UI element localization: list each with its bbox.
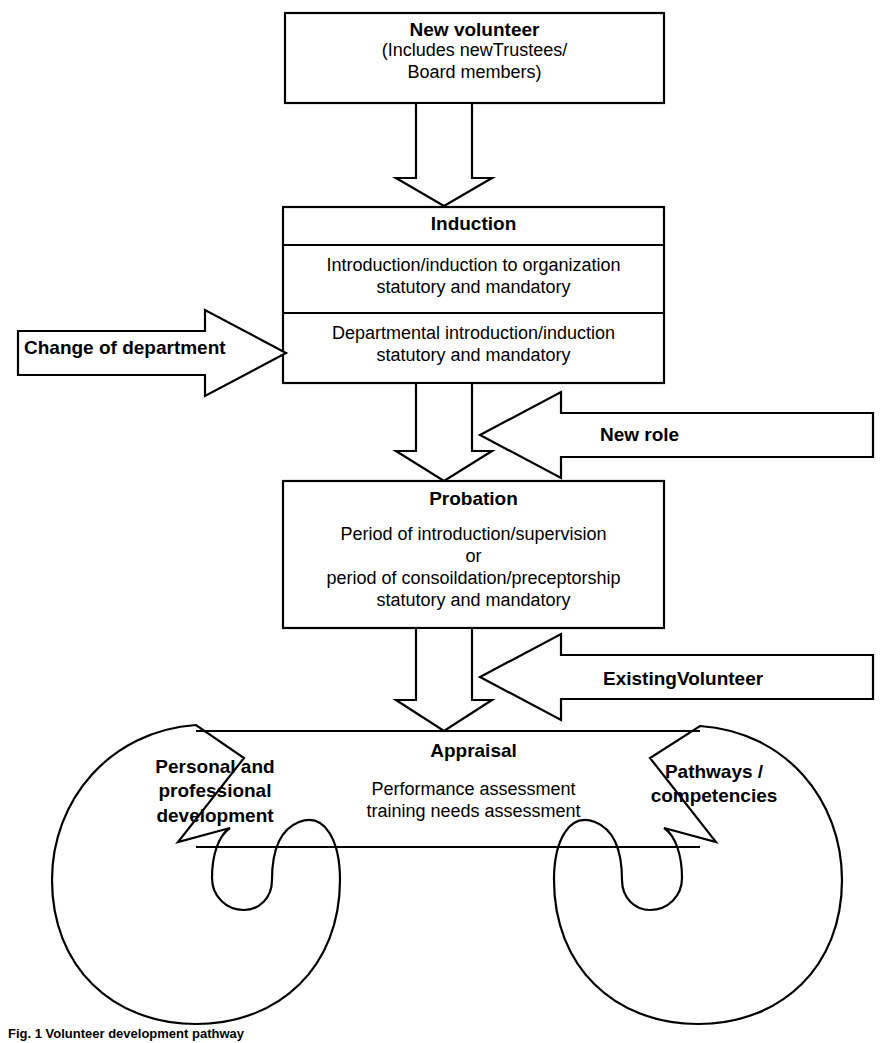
flowchart-canvas: New volunteer (Includes newTrustees/ Boa… (0, 0, 891, 1043)
left-loop-label: Personal and professional development (120, 755, 310, 828)
induction-row2-line2: statutory and mandatory (289, 345, 658, 367)
change-of-department-label: Change of department (24, 336, 272, 359)
connector-arrow-probation-to-appraisal (396, 628, 492, 731)
induction-row1-line1: Introduction/induction to organization (289, 255, 658, 277)
new-volunteer-sub-line2: Board members) (285, 62, 664, 84)
figure-caption: Fig. 1 Volunteer development pathway (8, 1026, 408, 1042)
induction-row-2: Departmental introduction/induction stat… (289, 323, 658, 367)
appraisal-body: Performance assessment training needs as… (288, 779, 659, 823)
connector-arrow-new-volunteer-to-induction (396, 103, 492, 206)
probation-line4: statutory and mandatory (286, 590, 661, 612)
right-loop-label: Pathways / competencies (624, 760, 804, 809)
probation-line1: Period of introduction/supervision (286, 524, 661, 546)
flowchart-vector-layer (0, 0, 891, 1043)
left-loop-line1: Personal and (120, 755, 310, 779)
right-loop-line2: competencies (624, 784, 804, 808)
right-loop-line1: Pathways / (624, 760, 804, 784)
left-loop-line3: development (120, 804, 310, 828)
new-volunteer-sub-line1: (Includes newTrustees/ (285, 40, 664, 62)
induction-row-1: Introduction/induction to organization s… (289, 255, 658, 299)
new-volunteer-subtitle: (Includes newTrustees/ Board members) (285, 40, 664, 84)
existing-volunteer-label: ExistingVolunteer (603, 667, 833, 690)
probation-title: Probation (283, 487, 664, 510)
probation-line2: or (286, 546, 661, 568)
left-loop-line2: professional (120, 779, 310, 803)
new-volunteer-title: New volunteer (285, 18, 664, 41)
induction-row1-line2: statutory and mandatory (289, 277, 658, 299)
appraisal-line2: training needs assessment (288, 801, 659, 823)
probation-line3: period of consoildation/preceptorship (286, 568, 661, 590)
induction-row2-line1: Departmental introduction/induction (289, 323, 658, 345)
connector-arrow-induction-to-probation (396, 383, 492, 481)
appraisal-title: Appraisal (283, 739, 664, 762)
new-role-label: New role (600, 423, 770, 446)
appraisal-line1: Performance assessment (288, 779, 659, 801)
induction-title: Induction (283, 212, 664, 235)
probation-body: Period of introduction/supervision or pe… (286, 524, 661, 612)
